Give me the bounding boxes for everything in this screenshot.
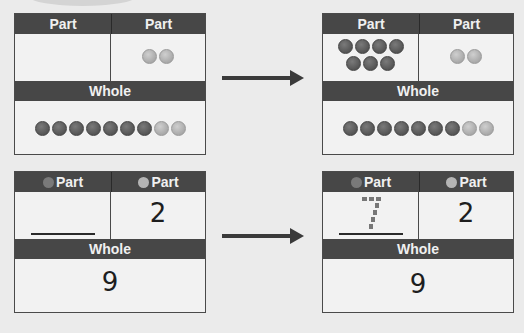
dark-counter-icon [411, 121, 426, 136]
part-left-label: Part [364, 174, 391, 190]
dark-counter-icon [86, 121, 101, 136]
light-counter-icon [142, 49, 157, 64]
part-part-whole-mat-bottom-right: Part Part 2 Whole 9 [322, 171, 514, 313]
part-part-whole-mat-top-right: Part Part Whole [322, 13, 514, 155]
light-counter-icon [479, 121, 494, 136]
part-right-label: Part [459, 174, 486, 190]
light-counter-icon [446, 177, 457, 188]
dark-counter-icon [355, 39, 370, 54]
whole-value: 9 [15, 267, 205, 297]
counter-row [323, 39, 418, 54]
whole-value: 9 [323, 269, 513, 299]
part-right-header: Part [419, 172, 513, 192]
dark-counter-icon [372, 39, 387, 54]
part-right-header: Part [111, 14, 205, 34]
part-left-header: Part [15, 172, 111, 192]
whole-area [323, 101, 513, 154]
part-left-area [15, 34, 111, 81]
light-counter-icon [450, 49, 465, 64]
part-left-label: Part [56, 174, 83, 190]
dark-counter-icon [360, 121, 375, 136]
counter-row [323, 56, 418, 71]
part-left-header: Part [323, 172, 419, 192]
parts-header: Part Part [15, 172, 205, 192]
part-left-area [323, 34, 419, 81]
counter-row [323, 121, 513, 136]
dark-counter-icon [120, 121, 135, 136]
part-left-area [15, 192, 111, 239]
whole-header: Whole [15, 81, 205, 101]
dark-counter-icon [346, 56, 361, 71]
part-right-header: Part [419, 14, 513, 34]
dark-counter-icon [103, 121, 118, 136]
dark-counter-icon [445, 121, 460, 136]
parts-header: Part Part [323, 14, 513, 34]
dark-counter-icon [52, 121, 67, 136]
part-right-label: Part [151, 174, 178, 190]
light-counter-icon [159, 49, 174, 64]
decorative-cloud [30, 0, 135, 6]
answer-line [339, 233, 403, 235]
part-right-header: Part [111, 172, 205, 192]
whole-area: 9 [15, 259, 205, 312]
counter-row [419, 49, 513, 64]
dark-counter-icon [380, 56, 395, 71]
dark-counter-icon [338, 39, 353, 54]
light-counter-icon [154, 121, 169, 136]
dark-counter-icon [43, 177, 54, 188]
dark-counter-icon [394, 121, 409, 136]
part-left-header: Part [15, 14, 111, 34]
dark-counter-icon [389, 39, 404, 54]
light-counter-icon [138, 177, 149, 188]
part-right-area: 2 [111, 192, 205, 239]
right-arrow-icon [222, 234, 294, 238]
whole-area [15, 101, 205, 154]
dotted-seven-trace [323, 194, 418, 238]
dark-counter-icon [351, 177, 362, 188]
answer-blank[interactable] [31, 233, 95, 235]
part-right-value: 2 [419, 198, 513, 228]
whole-header: Whole [323, 239, 513, 259]
dark-counter-icon [137, 121, 152, 136]
whole-header: Whole [15, 239, 205, 259]
dark-counter-icon [35, 121, 50, 136]
part-right-area [419, 34, 513, 81]
light-counter-icon [171, 121, 186, 136]
parts-header: Part Part [15, 14, 205, 34]
whole-header: Whole [323, 81, 513, 101]
dark-counter-icon [343, 121, 358, 136]
part-right-value: 2 [111, 198, 205, 228]
part-part-whole-mat-top-left: Part Part Whole [14, 13, 206, 155]
dark-counter-icon [69, 121, 84, 136]
counter-row [111, 49, 205, 64]
part-left-header: Part [323, 14, 419, 34]
right-arrow-icon [222, 76, 294, 80]
light-counter-icon [467, 49, 482, 64]
part-right-area: 2 [419, 192, 513, 239]
counter-row [15, 121, 205, 136]
parts-header: Part Part [323, 172, 513, 192]
light-counter-icon [462, 121, 477, 136]
part-part-whole-mat-bottom-left: Part Part 2 Whole 9 [14, 171, 206, 313]
whole-area: 9 [323, 259, 513, 312]
dotted-seven-icon [351, 194, 391, 234]
part-right-area [111, 34, 205, 81]
dark-counter-icon [377, 121, 392, 136]
part-left-area [323, 192, 419, 239]
dark-counter-icon [363, 56, 378, 71]
dark-counter-icon [428, 121, 443, 136]
